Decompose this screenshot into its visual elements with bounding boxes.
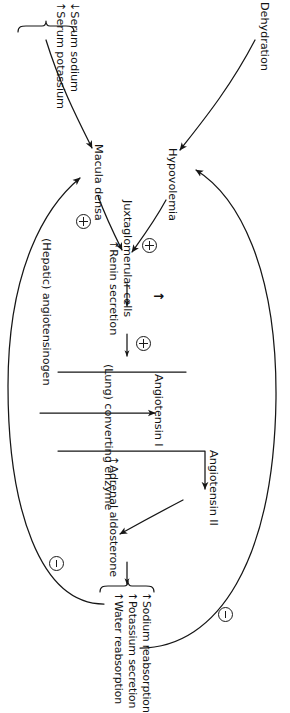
- edge-dehydration-to-hypovolemia: [180, 40, 255, 150]
- node-label-macula-densa: Macula densa: [91, 144, 104, 221]
- node-label-angiotensin-ii: Angiotensin II: [206, 450, 219, 526]
- plus-symbol-macula-densa-to-jg: [76, 214, 91, 229]
- node-label-potassium-secretion: ↑Potassium secretion: [126, 592, 138, 708]
- node-label-renin-secretion: ↑Renin secretion: [106, 240, 119, 335]
- up-arrow-glyph-renin: ↑: [152, 291, 165, 302]
- node-label-serum-potassium: ↑Serum potassium: [53, 2, 66, 109]
- plus-symbol-renin-to-angiotensinogen: [136, 336, 151, 351]
- minus-symbol-feedback-bottom: [49, 556, 64, 571]
- node-label-angiotensin-i: Angiotensin I: [151, 374, 164, 446]
- node-label-hypovolemia: Hypovolemia: [165, 148, 178, 221]
- node-label-dehydration: Dehydration: [257, 2, 270, 71]
- edge-angiotensin-i-to-angiotensin-ii: [58, 451, 205, 489]
- node-label-juxtaglomerular-cells: Juxtaglomerular cells: [120, 200, 133, 317]
- edge-angiotensin-ii-to-adrenal-aldosterone: [120, 500, 183, 534]
- figure-caption: FIGURE 5-2 The renin-angiotensin-aldoste…: [269, 370, 289, 670]
- node-label-serum-sodium: ↓Serum sodium: [67, 2, 80, 92]
- node-label-water-reabsorption: ↑Water reabsorption: [112, 592, 124, 704]
- minus-symbol-feedback-top: [218, 607, 233, 622]
- node-label-sodium-reabsorption: ↑Sodium reabsorption: [140, 592, 152, 713]
- node-label-hepatic-angiotensinogen: (Hepatic) angiotensinogen: [39, 238, 52, 385]
- node-label-adrenal-aldosterone: ↑Adrenal aldosterone: [106, 456, 119, 577]
- edge-negative-feedback-to-macula-densa: [8, 178, 104, 604]
- plus-symbol-hypovolemia-to-jg: [142, 238, 157, 253]
